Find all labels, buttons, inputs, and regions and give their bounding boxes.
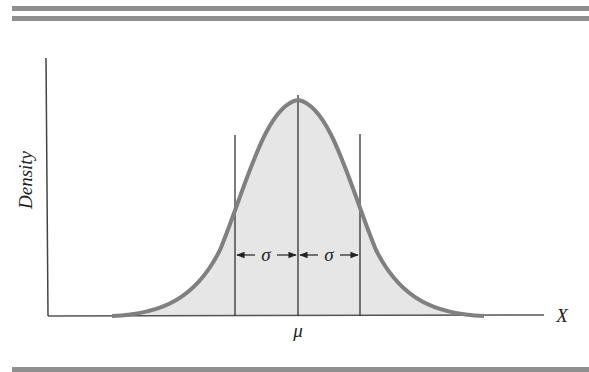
mean-label: μ: [292, 320, 303, 341]
normal-distribution-diagram: σ σ μ X Density: [0, 0, 589, 372]
y-axis: [46, 58, 48, 316]
sigma-label-right: σ: [324, 244, 334, 265]
sigma-label-left: σ: [261, 244, 271, 265]
y-axis-label: Density: [15, 150, 36, 210]
x-axis-label: X: [555, 305, 569, 326]
